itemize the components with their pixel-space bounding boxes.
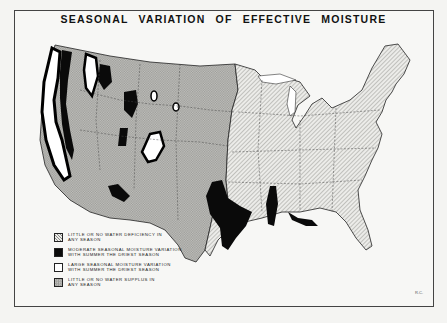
legend-item-moderate-variation: MODERATE SEASONAL MOISTURE VARIATION WIT…	[54, 247, 254, 261]
solid-black-swatch-icon	[54, 248, 63, 257]
crosshatch-swatch-icon	[54, 278, 63, 287]
legend-line-2: ANY SEASON	[68, 282, 101, 287]
author-mark: R.C.	[415, 290, 423, 295]
legend-item-little-surplus: LITTLE OR NO WATER SUPPLUS IN ANY SEASON	[54, 277, 254, 291]
white-swatch-icon	[54, 263, 63, 272]
legend-item-large-variation: LARGE SEASONAL MOISTURE VARIATION WITH S…	[54, 262, 254, 276]
legend-line-2: ANY SEASON	[68, 237, 101, 242]
bighorn-white	[151, 91, 157, 101]
legend-item-little-deficiency: LITTLE OR NO WATER DEFICIENCY IN ANY SEA…	[54, 232, 254, 246]
diagonal-hatch-swatch-icon	[54, 233, 63, 242]
legend-line-2: WITH SUMMER THE DRIEST SEASON	[68, 267, 159, 272]
alabama-moderate	[288, 212, 318, 226]
legend-line-2: WITH SUMMER THE DRIEST SEASON	[68, 252, 159, 257]
map-title: SEASONAL VARIATION OF EFFECTIVE MOISTURE	[0, 13, 447, 25]
